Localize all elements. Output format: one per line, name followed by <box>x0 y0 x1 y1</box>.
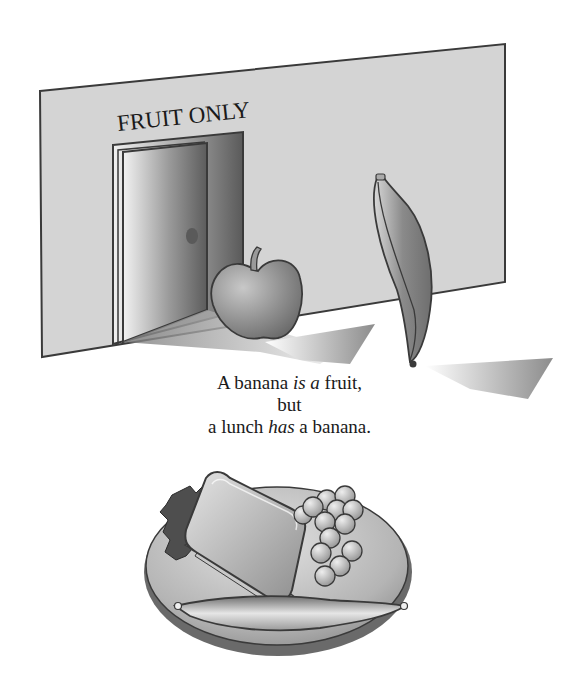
illustration-svg: FRUIT ONLY <box>0 0 579 681</box>
caption-text: fruit, <box>320 372 362 393</box>
caption-emphasis-is-a: is a <box>293 372 320 393</box>
caption: A banana is a fruit, but a lunch has a b… <box>0 372 579 438</box>
caption-text: a lunch <box>208 416 268 437</box>
caption-line-2: but <box>0 394 579 416</box>
illustration-canvas: FRUIT ONLY <box>0 0 579 681</box>
caption-emphasis-has: has <box>268 416 294 437</box>
banana-tip <box>410 361 417 368</box>
door-knob-icon <box>186 228 198 244</box>
banana-stem <box>376 174 385 180</box>
caption-line-1: A banana is a fruit, <box>0 372 579 394</box>
lunch-plate <box>144 472 412 656</box>
caption-line-3: a lunch has a banana. <box>0 416 579 438</box>
caption-text: a banana. <box>295 416 371 437</box>
caption-text: A banana <box>217 372 293 393</box>
